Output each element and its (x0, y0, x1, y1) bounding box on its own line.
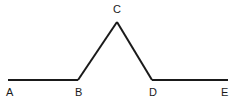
vertex-label-e: E (221, 87, 228, 98)
vertex-label-d: D (149, 87, 157, 98)
geometry-canvas (0, 0, 234, 110)
vertex-label-b: B (75, 87, 82, 98)
segment-group (8, 22, 228, 80)
vertex-label-c: C (113, 4, 121, 15)
segment-bc (78, 22, 117, 80)
segment-cd (117, 22, 152, 80)
vertex-label-a: A (6, 87, 13, 98)
geometry-figure: A B C D E (0, 0, 234, 110)
